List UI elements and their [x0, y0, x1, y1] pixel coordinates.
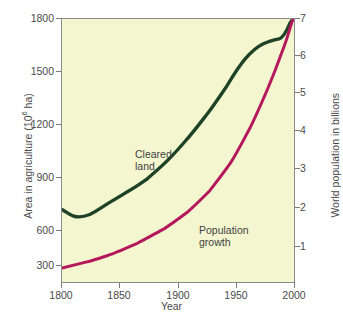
ticklabel-x-1950: 1950 [224, 290, 247, 301]
y-axis-right-title: World population in billions [330, 75, 341, 235]
y-axis-left-title-exponent: 6 [20, 111, 29, 115]
ticklabel-x-1900: 1900 [166, 290, 189, 301]
ticklabel-x-1850: 1850 [107, 290, 130, 301]
y-axis-left-title: Area in agriculture (106 ha) [21, 81, 33, 231]
y-axis-left-title-base: Area in agriculture (10 [22, 115, 34, 218]
ticklabel-x-2000: 2000 [282, 290, 305, 301]
chart-figure: Cleared land Population growth 1800 1500… [0, 0, 343, 319]
y-axis-left-title-tail: ha) [22, 93, 34, 111]
x-axis-ticklabels: 1800 1850 1900 1950 2000 [0, 0, 343, 319]
ticklabel-x-1800: 1800 [49, 290, 72, 301]
x-axis-title: Year [0, 301, 343, 312]
